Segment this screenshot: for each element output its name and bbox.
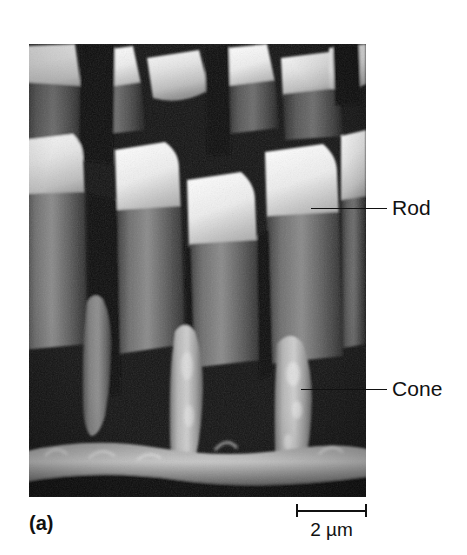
cone-label: Cone bbox=[392, 378, 443, 399]
scale-bar-cap-left bbox=[296, 504, 298, 517]
scale-bar-cap-right bbox=[365, 504, 367, 517]
cone-leader-line bbox=[301, 389, 387, 390]
micrograph-canvas bbox=[29, 44, 366, 497]
scale-bar-label: 2 µm bbox=[296, 519, 367, 540]
rod-label: Rod bbox=[392, 197, 431, 218]
panel-letter: (a) bbox=[29, 512, 53, 534]
rod-leader-line bbox=[311, 208, 387, 209]
sem-micrograph-image bbox=[29, 44, 366, 497]
figure-root: Rod Cone 2 µm (a) bbox=[0, 0, 467, 555]
scale-bar-rule bbox=[296, 510, 367, 512]
micrograph-vignette bbox=[29, 44, 366, 497]
scale-bar: 2 µm bbox=[296, 503, 367, 549]
